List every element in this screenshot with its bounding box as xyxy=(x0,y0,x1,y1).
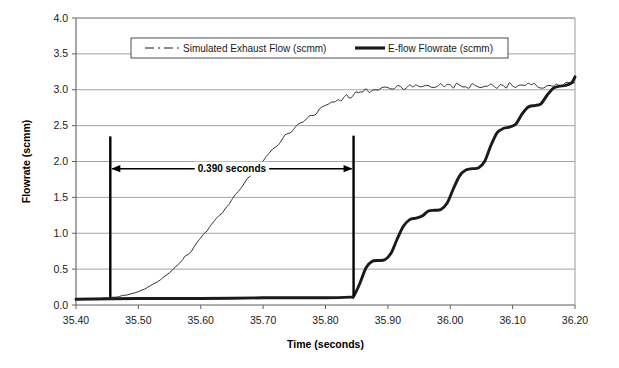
x-tick-label: 35.80 xyxy=(312,314,338,326)
y-tick-label: 2.0 xyxy=(53,155,68,167)
y-tick-label: 2.5 xyxy=(53,119,68,131)
y-tick-label: 0.5 xyxy=(53,263,68,275)
legend-label-simulated-exhaust-flow: Simulated Exhaust Flow (scmm) xyxy=(183,43,326,54)
y-axis-title: Flowrate (scmm) xyxy=(20,120,32,203)
y-tick-label: 0.0 xyxy=(53,299,68,311)
y-tick-label: 3.5 xyxy=(53,47,68,59)
x-tick-label: 35.40 xyxy=(63,314,89,326)
span-duration-label: 0.390 seconds xyxy=(198,163,267,174)
y-tick-label: 1.0 xyxy=(53,227,68,239)
x-axis-title: Time (seconds) xyxy=(287,338,364,350)
y-tick-label: 4.0 xyxy=(53,12,68,24)
x-tick-label: 36.00 xyxy=(437,314,463,326)
x-tick-label: 35.50 xyxy=(125,314,151,326)
x-tick-label: 35.60 xyxy=(188,314,214,326)
legend-label-eflow-flowrate: E-flow Flowrate (scmm) xyxy=(388,43,493,54)
chart-canvas: 0.00.51.01.52.02.53.03.54.0 35.4035.5035… xyxy=(0,0,619,368)
x-tick-label: 36.10 xyxy=(499,314,525,326)
chart-legend: Simulated Exhaust Flow (scmm) E-flow Flo… xyxy=(131,38,508,58)
x-tick-label: 35.70 xyxy=(250,314,276,326)
x-tick-label: 36.20 xyxy=(562,314,588,326)
flowrate-chart: 0.00.51.01.52.02.53.03.54.0 35.4035.5035… xyxy=(0,0,619,368)
x-tick-label: 35.90 xyxy=(375,314,401,326)
y-tick-label: 1.5 xyxy=(53,191,68,203)
y-tick-label: 3.0 xyxy=(53,83,68,95)
